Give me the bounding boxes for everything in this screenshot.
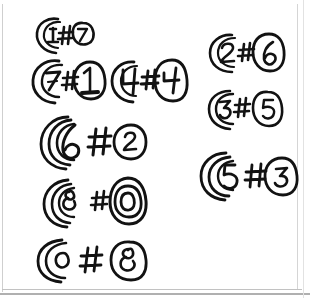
page-border-right-outer	[303, 0, 304, 298]
page-border-left	[2, 4, 3, 292]
page-border-bottom-outer	[0, 293, 310, 295]
equation-1-hash-7: 1 # 7	[26, 14, 100, 62]
equation-8-hash-0: 8 # 0	[40, 176, 148, 238]
equation-2-hash-6: 2 # 6	[202, 30, 288, 80]
equation-4-hash-4: 4 # 4	[106, 56, 190, 112]
equation-3-hash-5: 3 # 5	[202, 86, 288, 136]
equation-0-hash-8: 0 # 8	[30, 236, 148, 292]
equation-6-hash-2: 6 # 2	[38, 112, 148, 176]
equation-7-hash-1: 7 # 1	[26, 56, 108, 112]
page-border-right	[297, 4, 298, 290]
scanned-page: 1 # 7 7 # 1	[0, 0, 310, 298]
equation-5-hash-3: 5 # 3	[196, 148, 300, 208]
